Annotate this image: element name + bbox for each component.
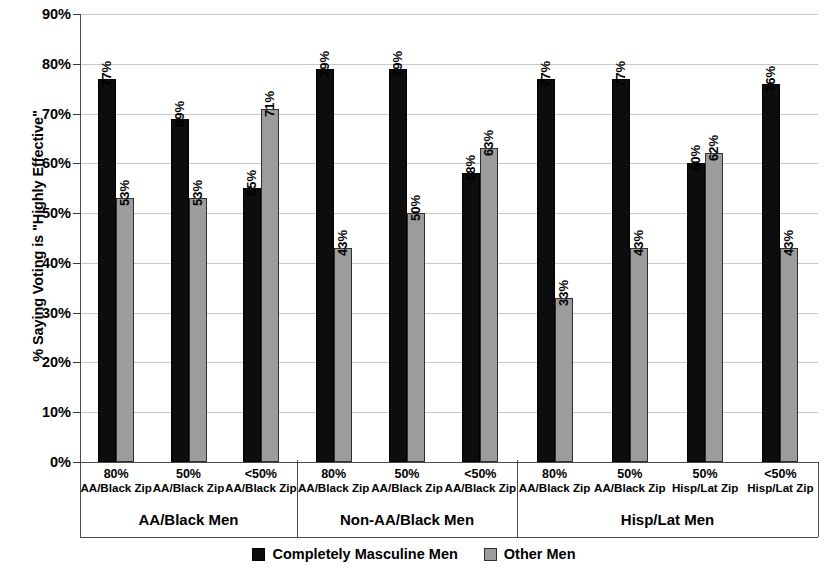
bar-value-label: 53% <box>118 180 131 206</box>
x-category-label-bottom: AA/Black Zip <box>370 481 443 494</box>
legend-swatch-icon <box>252 548 265 561</box>
bar <box>316 69 334 462</box>
x-category-label: 80%AA/Black Zip <box>297 467 370 495</box>
y-tick-label: 70% <box>25 106 71 121</box>
label-box-bottom-line <box>80 537 818 538</box>
x-category-label: 50%AA/Black Zip <box>152 467 224 495</box>
x-category-label-top: 50% <box>152 467 224 481</box>
bar-value-label: 43% <box>632 230 645 256</box>
bar <box>389 69 407 462</box>
y-tick-label: 40% <box>25 256 71 271</box>
y-tick-mark <box>73 163 80 164</box>
y-tick-mark <box>73 362 80 363</box>
y-tick-label: 20% <box>25 355 71 370</box>
bar <box>705 153 723 462</box>
x-group-label: AA/Black Men <box>80 511 297 528</box>
x-category-label-bottom: AA/Black Zip <box>444 481 517 494</box>
bar-value-label: 79% <box>318 51 331 77</box>
y-tick-mark <box>73 14 80 15</box>
x-category-label: 50%AA/Black Zip <box>592 467 667 495</box>
bar-value-label: 53% <box>191 180 204 206</box>
y-tick-mark <box>73 412 80 413</box>
bar <box>243 188 261 462</box>
legend-label: Completely Masculine Men <box>272 546 457 562</box>
bar <box>462 173 480 462</box>
y-tick-label: 0% <box>25 455 71 470</box>
y-tick-mark <box>73 263 80 264</box>
x-category-label: <50%AA/Black Zip <box>225 467 297 495</box>
bar <box>537 79 555 462</box>
y-tick-label: 30% <box>25 305 71 320</box>
legend-swatch-icon <box>484 548 497 561</box>
bar-value-label: 77% <box>100 61 113 87</box>
y-tick-label: 50% <box>25 206 71 221</box>
bar <box>407 213 425 462</box>
bar <box>189 198 207 462</box>
x-group-label: Hisp/Lat Men <box>517 511 818 528</box>
bar-chart: % Saying Voting is "Highly Effective" 0%… <box>0 0 828 577</box>
bar-value-label: 50% <box>409 195 422 221</box>
y-tick-mark <box>73 313 80 314</box>
y-axis-line <box>80 14 81 537</box>
x-category-label-top: 80% <box>80 467 152 481</box>
x-category-label-top: 50% <box>370 467 443 481</box>
x-category-label: <50%AA/Black Zip <box>444 467 517 495</box>
bar <box>687 163 705 462</box>
bar <box>116 198 134 462</box>
x-category-label: <50%Hisp/Lat Zip <box>743 467 818 495</box>
x-category-label-top: 50% <box>592 467 667 481</box>
x-axis-line <box>80 462 818 463</box>
x-category-label-top: 80% <box>297 467 370 481</box>
bar-value-label: 63% <box>482 130 495 156</box>
bar-value-label: 33% <box>557 280 570 306</box>
y-tick-mark <box>73 462 80 463</box>
x-category-label-bottom: AA/Black Zip <box>225 481 297 494</box>
y-tick-label: 60% <box>25 156 71 171</box>
x-category-label-top: <50% <box>743 467 818 481</box>
bar <box>98 79 116 462</box>
bar-value-label: 79% <box>391 51 404 77</box>
bar-value-label: 43% <box>336 230 349 256</box>
x-category-label-bottom: AA/Black Zip <box>152 481 224 494</box>
bar-value-label: 55% <box>245 170 258 196</box>
bar-value-label: 71% <box>263 91 276 117</box>
x-category-label-top: 50% <box>668 467 743 481</box>
bar <box>612 79 630 462</box>
x-category-label: 50%AA/Black Zip <box>370 467 443 495</box>
x-category-label: 80%AA/Black Zip <box>80 467 152 495</box>
x-category-label-bottom: Hisp/Lat Zip <box>668 481 743 494</box>
x-category-label-bottom: AA/Black Zip <box>517 481 592 494</box>
gridline <box>80 64 818 65</box>
bar <box>555 298 573 462</box>
x-category-label: 80%AA/Black Zip <box>517 467 592 495</box>
bar <box>762 84 780 462</box>
bar-value-label: 43% <box>782 230 795 256</box>
legend-item-completely-masculine-men: Completely Masculine Men <box>252 546 457 562</box>
gridline <box>80 114 818 115</box>
gridline <box>80 14 818 15</box>
y-tick-mark <box>73 213 80 214</box>
y-tick-mark <box>73 114 80 115</box>
y-tick-label: 90% <box>25 7 71 22</box>
label-box-right-line <box>818 462 819 537</box>
x-category-label-bottom: AA/Black Zip <box>80 481 152 494</box>
x-category-label-top: 80% <box>517 467 592 481</box>
bar <box>630 248 648 462</box>
bar-value-label: 69% <box>173 101 186 127</box>
legend-label: Other Men <box>504 546 576 562</box>
legend-item-other-men: Other Men <box>484 546 576 562</box>
y-tick-label: 10% <box>25 405 71 420</box>
bar <box>171 119 189 462</box>
x-category-label-top: <50% <box>444 467 517 481</box>
bar-value-label: 77% <box>614 61 627 87</box>
x-group-label: Non-AA/Black Men <box>297 511 517 528</box>
bar <box>780 248 798 462</box>
y-tick-mark <box>73 64 80 65</box>
bar-value-label: 77% <box>539 61 552 87</box>
bar-value-label: 62% <box>707 135 720 161</box>
bar-value-label: 58% <box>464 155 477 181</box>
bar <box>480 148 498 462</box>
y-axis-title: % Saying Voting is "Highly Effective" <box>30 26 46 446</box>
bar-value-label: 60% <box>689 145 702 171</box>
x-category-label-bottom: AA/Black Zip <box>592 481 667 494</box>
